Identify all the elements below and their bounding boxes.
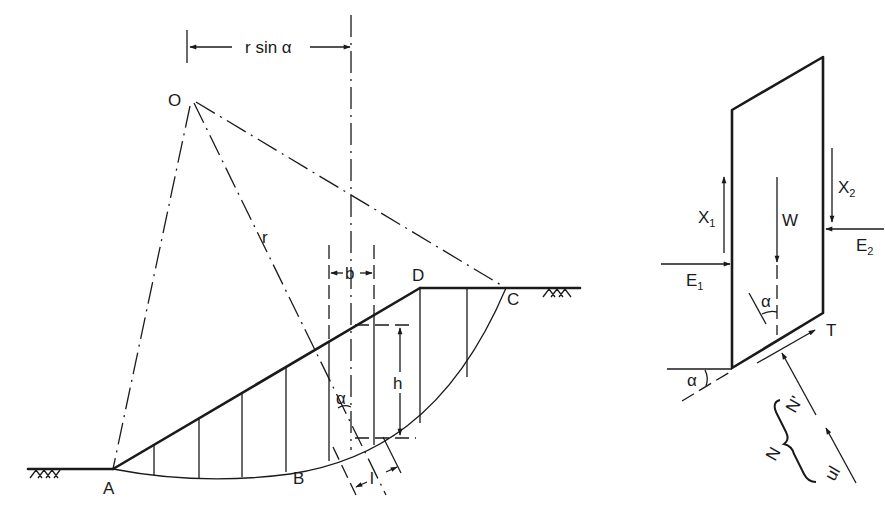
height-label: h (393, 374, 402, 393)
alpha-arc-top (762, 311, 777, 314)
centre-label: O (168, 91, 181, 110)
base-arrow-right (386, 467, 397, 472)
force-ul-label: ul (821, 463, 844, 484)
moment-arm-label: r sin α (245, 38, 292, 57)
force-N-label: N (762, 444, 785, 464)
angle-base-label: α (687, 371, 697, 390)
base-arrow-left (356, 482, 367, 487)
ground-hatch-left-icon (30, 470, 60, 478)
force-N-prime-label: N' (782, 393, 806, 416)
radius-to-slice (194, 103, 386, 495)
point-B-label: B (293, 469, 304, 488)
point-C-label: C (507, 290, 519, 309)
base-length-label: l (370, 469, 374, 488)
alpha-label: α (336, 389, 346, 408)
force-X1-label: X1 (698, 208, 715, 229)
radius-label: r (262, 228, 268, 247)
force-X2-label: X2 (838, 178, 855, 199)
slope-figure: r sin α O r b h α l A B C D (28, 15, 580, 498)
force-E1-label: E1 (686, 271, 703, 292)
point-D-label: D (412, 266, 424, 285)
ground-hatch-right-icon (543, 289, 571, 297)
point-A-label: A (103, 479, 115, 498)
angle-top-label: α (761, 292, 771, 311)
force-W-label: W (782, 211, 798, 230)
slip-circle (113, 288, 506, 479)
base-ext-left (333, 447, 356, 495)
force-T-label: T (826, 321, 836, 340)
slice-lines (154, 288, 467, 478)
width-label: b (345, 264, 354, 283)
radius-to-A (113, 106, 190, 469)
base-ext-right (383, 437, 401, 473)
force-E2-label: E2 (856, 236, 873, 257)
alpha-arc-base (705, 370, 707, 386)
slope-stability-diagram: r sin α O r b h α l A B C D (0, 0, 885, 511)
slice-free-body: X1 E1 W X2 E2 α α T N' N ul (661, 57, 884, 484)
